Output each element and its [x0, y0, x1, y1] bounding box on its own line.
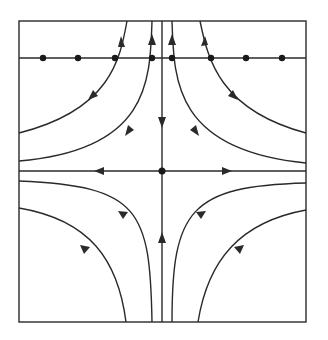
arrow-down-left-icon — [88, 90, 98, 100]
arrow-down-icon — [158, 117, 166, 128]
dot — [149, 55, 155, 61]
trajectory-upper-left-inner — [19, 21, 152, 161]
arrow-up-icon — [168, 34, 176, 45]
dot — [112, 55, 118, 61]
dot — [169, 55, 175, 61]
arrow-up-right-icon — [80, 245, 90, 254]
arrow-up-icon — [158, 232, 166, 243]
trajectory-upper-right-inner — [172, 21, 306, 163]
trajectory-upper-left-outer — [19, 21, 127, 133]
arrow-up-icon — [201, 36, 208, 46]
arrow-down-right-icon — [228, 90, 238, 100]
arrow-left-icon — [94, 167, 104, 175]
arrow-up-left-icon — [196, 211, 206, 219]
dot — [243, 55, 249, 61]
dot — [208, 55, 214, 61]
arrow-right-icon — [222, 167, 232, 175]
dot — [75, 55, 81, 61]
arrow-up-left-icon — [234, 245, 244, 254]
dot — [279, 55, 285, 61]
trajectory-lower-left-outer — [19, 208, 126, 322]
phase-portrait-svg — [0, 0, 328, 340]
arrow-down-left-icon — [125, 125, 134, 136]
arrow-up-right-icon — [118, 211, 128, 219]
saddle-point — [159, 168, 166, 175]
phase-portrait-diagram — [0, 0, 328, 340]
arrow-down-right-icon — [190, 125, 199, 136]
trajectory-lower-right-outer — [198, 210, 306, 322]
trajectory-upper-right-outer — [200, 21, 306, 133]
arrow-up-icon — [148, 34, 156, 45]
dot — [40, 55, 46, 61]
